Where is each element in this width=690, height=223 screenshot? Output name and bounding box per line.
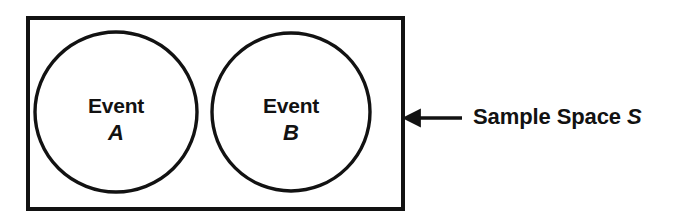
diagram-canvas: Event A Event B Sample Space S xyxy=(0,0,690,223)
event-b-circle xyxy=(212,33,370,191)
venn-diagram-svg xyxy=(0,0,690,223)
event-a-circle xyxy=(35,32,197,192)
